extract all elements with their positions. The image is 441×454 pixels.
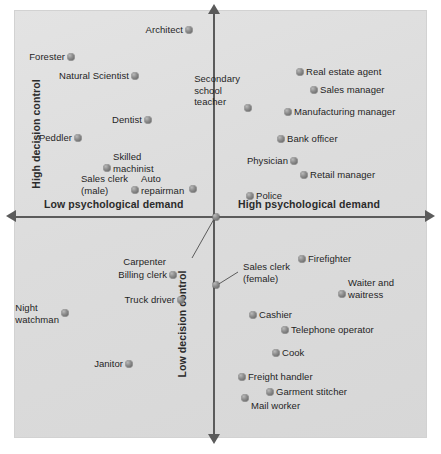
point-label-secondary-school-teacher: Secondary school teacher — [194, 73, 240, 108]
point-marker-sales-manager — [311, 87, 318, 94]
point-marker-cashier — [250, 312, 257, 319]
point-label-skilled-machinist: Skilled machinist — [113, 151, 154, 174]
point-label-physician: Physician — [247, 155, 288, 167]
point-marker-secondary-school-teacher — [245, 105, 252, 112]
point-marker-auto-repairman — [132, 187, 139, 194]
point-label-firefighter: Firefighter — [308, 253, 351, 265]
point-marker-physician — [291, 158, 298, 165]
point-marker-garment-stitcher — [267, 389, 274, 396]
point-marker-unlabeled-ul — [190, 186, 197, 193]
point-label-forester: Forester — [29, 51, 65, 63]
point-marker-bank-officer — [278, 136, 285, 143]
point-marker-peddler — [75, 135, 82, 142]
point-marker-natural-scientist — [132, 73, 139, 80]
point-marker-police — [247, 193, 254, 200]
point-label-architect: Architect — [146, 24, 183, 36]
point-marker-skilled-machinist — [104, 165, 111, 172]
point-label-truck-driver: Truck driver — [125, 294, 175, 306]
y-axis-low-label: Low decision control — [176, 264, 188, 384]
point-label-police: Police — [256, 190, 282, 202]
point-label-real-estate-agent: Real estate agent — [306, 66, 381, 78]
point-label-peddler: Peddler — [39, 132, 72, 144]
point-label-dentist: Dentist — [112, 114, 142, 126]
point-label-janitor: Janitor — [94, 358, 123, 370]
point-label-sales-clerk-male: Sales clerk (male) — [81, 173, 128, 196]
point-marker-janitor — [126, 361, 133, 368]
point-label-auto-repairman: Auto repairman — [141, 173, 184, 196]
point-label-manufacturing-manager: Manufacturing manager — [294, 106, 395, 118]
point-marker-retail-manager — [301, 172, 308, 179]
point-label-mail-worker: Mail worker — [251, 400, 300, 412]
x-axis-line — [14, 216, 427, 218]
point-marker-cook — [273, 350, 280, 357]
point-label-natural-scientist: Natural Scientist — [59, 70, 129, 82]
scatter-chart: Low psychological demand High psychologi… — [0, 0, 441, 454]
point-label-telephone-operator: Telephone operator — [291, 324, 374, 336]
x-axis-low-label: Low psychological demand — [44, 198, 184, 210]
point-marker-forester — [68, 54, 75, 61]
point-marker-telephone-operator — [282, 327, 289, 334]
point-marker-manufacturing-manager — [285, 109, 292, 116]
point-label-retail-manager: Retail manager — [310, 169, 375, 181]
point-label-cashier: Cashier — [259, 309, 292, 321]
point-marker-architect — [186, 27, 193, 34]
point-marker-dentist — [145, 117, 152, 124]
point-marker-truck-driver — [178, 297, 185, 304]
point-marker-waiter-and-waitress — [339, 291, 346, 298]
point-label-billing-clerk: Billing clerk — [118, 269, 167, 281]
point-label-waiter-and-waitress: Waiter and waitress — [348, 277, 394, 300]
point-label-cook: Cook — [282, 347, 304, 359]
point-marker-sales-clerk-female-dot — [213, 282, 220, 289]
x-axis-left-arrow-icon — [6, 210, 16, 222]
y-axis-top-arrow-icon — [208, 4, 220, 14]
y-axis-bottom-arrow-icon — [208, 434, 220, 444]
point-marker-mail-worker — [242, 395, 249, 402]
point-label-night-watchman: Night watchman — [15, 302, 59, 325]
point-marker-carpenter — [213, 214, 220, 221]
point-label-sales-manager: Sales manager — [320, 84, 385, 96]
point-marker-night-watchman — [62, 310, 69, 317]
x-axis-right-arrow-icon — [425, 210, 435, 222]
point-label-bank-officer: Bank officer — [287, 133, 338, 145]
point-marker-real-estate-agent — [297, 69, 304, 76]
point-marker-billing-clerk — [170, 272, 177, 279]
point-label-sales-clerk-female: Sales clerk (female) — [243, 261, 290, 284]
point-label-garment-stitcher: Garment stitcher — [276, 386, 347, 398]
point-marker-freight-handler — [239, 374, 246, 381]
point-label-freight-handler: Freight handler — [248, 371, 313, 383]
point-label-carpenter: Carpenter — [123, 256, 166, 268]
point-marker-firefighter — [299, 256, 306, 263]
